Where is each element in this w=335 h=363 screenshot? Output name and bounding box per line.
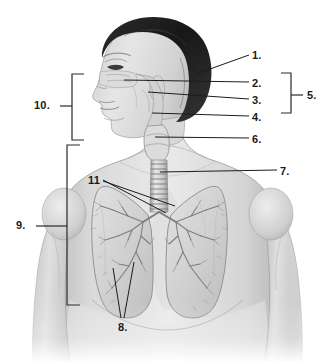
- label-1[interactable]: 1.: [252, 50, 262, 61]
- label-3[interactable]: 3.: [252, 95, 262, 106]
- label-5[interactable]: 5.: [307, 90, 317, 101]
- label-9[interactable]: 9.: [16, 220, 26, 231]
- label-11[interactable]: 11: [88, 175, 100, 186]
- label-2[interactable]: 2.: [252, 78, 262, 89]
- label-4[interactable]: 4.: [252, 112, 262, 123]
- bottom-fade: [0, 300, 335, 363]
- label-8[interactable]: 8.: [118, 322, 128, 333]
- anatomy-illustration: [0, 0, 335, 363]
- label-10[interactable]: 10.: [34, 100, 50, 111]
- respiratory-system-figure: 1. 2. 3. 4. 5. 6. 7. 8. 9. 10. 11: [0, 0, 335, 363]
- label-6[interactable]: 6.: [252, 134, 262, 145]
- label-7[interactable]: 7.: [280, 166, 290, 177]
